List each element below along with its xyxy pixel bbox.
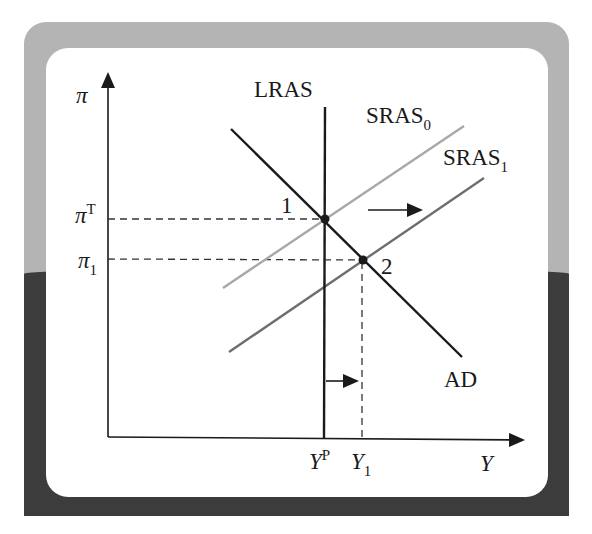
sras0-label-base: SRAS [366,103,424,128]
lras-label: LRAS [254,78,313,101]
equilibrium-point-1 [321,215,330,224]
sras0-label: SRAS0 [366,104,431,127]
point-1-label: 1 [281,194,293,217]
ad-label: AD [444,368,477,391]
y-1-sub: 1 [364,463,372,479]
sras1-curve [229,178,484,352]
x-axis-label: Y [480,452,493,475]
y-potential-label: YP [309,450,330,473]
y-potential-base: Y [309,449,322,474]
y-axis-label: π [76,84,88,107]
equilibrium-point-2 [359,256,368,265]
point-2-label: 2 [381,255,393,278]
y-1-label: Y1 [351,450,371,473]
x-axis [108,437,523,440]
pi-1-label: π1 [78,249,97,272]
pi-target-label: πT [75,204,96,227]
sras1-label-base: SRAS [443,145,501,170]
sras1-label-sub: 1 [501,159,509,175]
sras0-curve [223,126,464,288]
y-1-base: Y [351,449,364,474]
pi-1-sub: 1 [90,262,98,278]
y-potential-sup: P [322,447,330,463]
pi-target-base: π [75,203,87,228]
sras0-label-sub: 0 [424,117,432,133]
ad-curve [231,129,462,357]
pi-1-base: π [78,248,90,273]
sras1-label: SRAS1 [443,146,508,169]
pi-target-sup: T [87,201,96,217]
lras-curve [324,107,325,438]
